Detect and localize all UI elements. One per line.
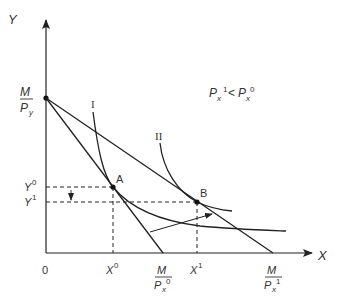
svg-text:1: 1 (276, 277, 281, 286)
svg-text:x: x (245, 94, 251, 103)
svg-text:P: P (264, 279, 272, 291)
price-condition: P x 1 < P x 0 (209, 85, 255, 103)
y1-label: Y 1 (24, 193, 37, 208)
svg-text:P: P (20, 101, 28, 115)
svg-text:X: X (189, 264, 198, 276)
svg-text:x: x (216, 94, 222, 103)
x-axis-label: X (317, 248, 328, 263)
point-B (194, 199, 199, 204)
svg-text:1: 1 (32, 193, 37, 202)
y0-label: Y 0 (24, 178, 37, 193)
point-A-label: A (116, 173, 124, 185)
svg-text:x: x (161, 285, 167, 294)
svg-text:Y: Y (24, 196, 32, 208)
y-intercept-label: M P y (20, 85, 34, 117)
origin-label: 0 (42, 264, 48, 276)
indifference-curve-I (93, 112, 286, 231)
svg-text:y: y (28, 108, 34, 117)
svg-text:P: P (238, 86, 246, 100)
svg-text:0: 0 (166, 277, 171, 286)
x-intercept-1-label: M P x 1 (264, 264, 282, 294)
svg-text:Y: Y (24, 181, 32, 193)
svg-text:0: 0 (32, 178, 37, 187)
svg-text:M: M (267, 264, 277, 276)
x0-label: X 0 (105, 261, 119, 276)
svg-text:P: P (154, 279, 162, 291)
curve-I-label: I (91, 98, 95, 110)
x1-label: X 1 (189, 261, 203, 276)
budget-line-initial (46, 98, 163, 253)
x-intercept-0-label: M P x 0 (154, 264, 172, 294)
svg-text:P: P (209, 86, 217, 100)
svg-text:<: < (228, 86, 235, 100)
svg-text:X: X (105, 264, 114, 276)
point-A (110, 184, 115, 189)
guide-lines (46, 187, 197, 253)
svg-text:0: 0 (250, 85, 255, 94)
svg-text:0: 0 (114, 261, 119, 270)
svg-text:M: M (157, 264, 167, 276)
curve-II-label: II (155, 130, 163, 142)
diagram-canvas: Y X 0 M P y I II A B Y 0 Y 1 X 0 (0, 0, 348, 306)
svg-text:x: x (271, 285, 277, 294)
y-axis-label: Y (8, 12, 18, 27)
point-B-label: B (200, 187, 207, 199)
svg-text:M: M (20, 85, 30, 99)
svg-text:1: 1 (198, 261, 203, 270)
